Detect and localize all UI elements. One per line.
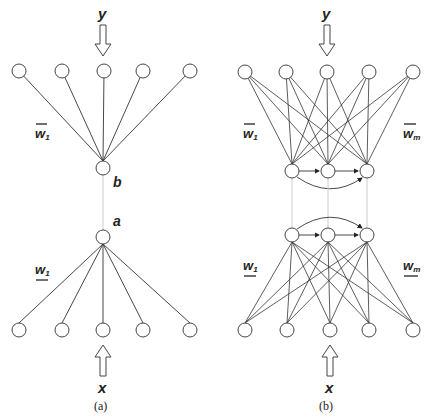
bottom-edges (245, 242, 413, 323)
caption-a: (a) (94, 399, 107, 413)
output-arrow-icon (95, 25, 111, 56)
output-arrow-icon (319, 25, 335, 56)
node (12, 323, 26, 337)
hidden-node-a (96, 230, 110, 244)
node (360, 228, 374, 242)
input-label-x: x (97, 379, 107, 396)
input-arrow-icon (322, 345, 338, 376)
input-arrow-icon (95, 345, 111, 376)
node (136, 323, 150, 337)
node (280, 323, 294, 337)
node (238, 323, 252, 337)
node (12, 64, 26, 78)
node (360, 164, 374, 178)
network-diagram: y (0, 0, 434, 417)
weight-label-top: w1 (35, 126, 50, 142)
input-nodes (238, 323, 420, 337)
node (320, 65, 334, 79)
vertical-links (292, 178, 367, 228)
node (55, 323, 69, 337)
input-nodes (12, 323, 197, 337)
weight-label-bottom: w1 (35, 262, 50, 278)
hidden-node-b (96, 161, 110, 175)
input-label-x: x (324, 379, 334, 396)
node (238, 65, 252, 79)
node (321, 228, 335, 242)
weight-label-bottom-right: wm (403, 258, 420, 274)
top-edges (19, 71, 190, 161)
node (183, 64, 197, 78)
node (362, 65, 376, 79)
label-a: a (113, 213, 121, 229)
caption-b: (b) (319, 399, 333, 413)
label-b: b (113, 174, 122, 190)
output-nodes (238, 65, 420, 79)
node (55, 64, 69, 78)
hidden-nodes-lower (285, 228, 374, 242)
weight-label-bottom-left: w1 (243, 258, 258, 274)
hidden-nodes-upper (285, 164, 374, 178)
node (321, 164, 335, 178)
node (406, 65, 420, 79)
node (285, 228, 299, 242)
node (136, 64, 150, 78)
bottom-edges (19, 244, 190, 323)
node (183, 323, 197, 337)
panel-a: y (12, 5, 197, 413)
node (97, 64, 111, 78)
output-label-y: y (321, 5, 331, 22)
node (362, 323, 376, 337)
output-label-y: y (97, 5, 107, 22)
node (285, 164, 299, 178)
weight-label-top-right: wm (403, 126, 420, 142)
node (279, 65, 293, 79)
output-nodes (12, 64, 197, 78)
panel-b: y (238, 5, 420, 413)
top-edges (245, 72, 413, 164)
node (96, 323, 110, 337)
node (323, 323, 337, 337)
node (406, 323, 420, 337)
weight-label-top-left: w1 (243, 126, 258, 142)
